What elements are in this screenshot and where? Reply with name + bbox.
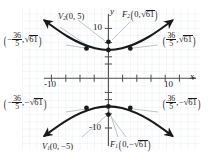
point-latus-upper-right [128, 46, 133, 51]
paren-open: ( [131, 10, 134, 19]
fraction-36-over-5: 365 [12, 32, 22, 49]
label-latus-lower-left: (−365, −√61) [3, 95, 47, 112]
point-vertex-upper [106, 48, 111, 53]
paren-open: ( [163, 99, 166, 108]
vertex-lower-point: (0, −5) [50, 141, 73, 151]
label-focus-lower: F1(0, −√61) [110, 140, 152, 150]
label-vertex-lower: V1(0, −5) [42, 142, 73, 152]
denominator: 5 [166, 103, 176, 111]
vertex-upper-point: (0, 5) [66, 11, 84, 21]
y-tick-label-pos10: 10 [93, 23, 102, 32]
paren-close: ) [193, 36, 196, 45]
paren-close: ) [39, 36, 42, 45]
focus-upper-subscript: 2 [127, 13, 130, 19]
y-tick-label-neg10: -10 [89, 123, 101, 132]
label-focus-upper: F2(0, √61) [122, 10, 159, 20]
sqrt-icon: √61 [179, 35, 192, 44]
focus-lower-subscript: 1 [115, 143, 118, 149]
y-axis-label: y [110, 7, 114, 16]
fraction-36-over-5: 365 [166, 32, 176, 49]
point-focus-upper [106, 39, 111, 44]
x-tick-label-neg10: -10 [44, 80, 56, 89]
x-tick-label-pos10: 10 [164, 80, 173, 89]
focus-lower-x: 0 [122, 139, 126, 149]
sqrt-icon: √61 [30, 98, 43, 107]
paren-open: ( [119, 140, 122, 149]
paren-close: ) [155, 10, 158, 19]
denominator: 5 [12, 103, 22, 111]
denominator: 5 [12, 40, 22, 48]
point-latus-lower-left [84, 106, 89, 111]
graph-canvas [0, 0, 221, 161]
point-vertex-lower [106, 104, 111, 109]
label-latus-upper-right: (365, √61) [162, 32, 196, 49]
paren-close: ) [43, 99, 46, 108]
paren-open: ( [163, 36, 166, 45]
sqrt-icon: √61 [184, 98, 197, 107]
denominator: 5 [166, 40, 176, 48]
fraction-36-over-5: 365 [12, 95, 22, 112]
paren-close: ) [148, 140, 151, 149]
label-vertex-upper: V2(0, 5) [58, 12, 84, 22]
paren-open: ( [4, 99, 7, 108]
paren-close: ) [198, 99, 201, 108]
sqrt-icon: √61 [25, 35, 38, 44]
point-latus-lower-right [128, 106, 133, 111]
x-axis-label: x [190, 72, 194, 81]
hyperbola-figure: y x -10 10 10 -10 V2(0, 5) F2(0, √61) (−… [0, 0, 221, 161]
fraction-36-over-5: 365 [166, 95, 176, 112]
label-latus-upper-left: (−365, √61) [3, 32, 42, 49]
sqrt-icon: √61 [141, 10, 154, 19]
paren-open: ( [4, 36, 7, 45]
point-latus-upper-left [84, 46, 89, 51]
label-latus-lower-right: (365, −√61) [162, 95, 201, 112]
point-focus-lower [106, 112, 111, 117]
focus-upper-x: 0 [134, 9, 138, 19]
sqrt-icon: √61 [134, 140, 147, 149]
